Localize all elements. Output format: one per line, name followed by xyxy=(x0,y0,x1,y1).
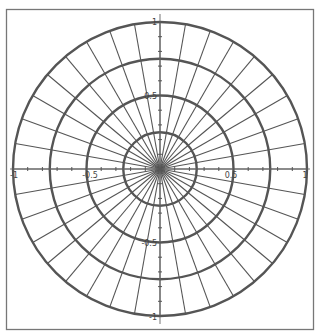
y-tick-label-neg05: -0.5 xyxy=(141,239,157,248)
x-tick-label-pos05: 0.5 xyxy=(225,171,238,180)
x-tick-label-neg1: -1 xyxy=(10,171,18,180)
polar-grid-chart: -1 -0.5 0.5 1 1 0.5 -0.5 -1 xyxy=(0,0,320,335)
x-tick-label-pos1: 1 xyxy=(302,171,307,180)
y-tick-label-pos1: 1 xyxy=(152,18,157,27)
y-tick-label-neg1: -1 xyxy=(149,313,157,322)
axis-ticks xyxy=(13,22,307,316)
x-tick-label-neg05: -0.5 xyxy=(82,171,98,180)
y-tick-label-pos05: 0.5 xyxy=(144,92,157,101)
